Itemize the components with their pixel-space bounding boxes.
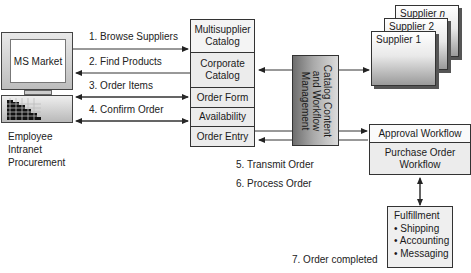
step-7-label: 7. Order completed	[292, 254, 378, 265]
monitor-screen: MS Market	[10, 39, 66, 83]
catalog-workflow-management-box: Catalog Content and Workflow Management	[292, 55, 339, 146]
availability-cell: Availability	[191, 108, 254, 127]
catalog-stack: Multisupplier Catalog Corporate Catalog …	[190, 19, 255, 147]
step-5-label: 5. Transmit Order	[236, 159, 314, 170]
multisupplier-catalog-cell: Multisupplier Catalog	[191, 20, 254, 53]
step-4-label: 4. Confirm Order	[89, 104, 163, 115]
step-3-label: 3. Order Items	[89, 80, 153, 91]
monitor: MS Market	[1, 32, 73, 90]
order-entry-cell: Order Entry	[191, 127, 254, 147]
employee-computer: MS Market	[1, 32, 74, 124]
corporate-catalog-cell: Corporate Catalog	[191, 53, 254, 88]
management-label: Catalog Content and Workflow Management	[299, 64, 332, 136]
keypad-grid-icon	[7, 98, 47, 122]
fulfillment-box: Fulfillment • Shipping • Accounting • Me…	[387, 206, 453, 268]
cpu-unit	[1, 95, 73, 123]
step-6-label: 6. Process Order	[236, 178, 312, 189]
fulfillment-item: • Shipping	[394, 223, 452, 236]
order-form-cell: Order Form	[191, 88, 254, 108]
employee-caption: Employee Intranet Procurement	[8, 130, 65, 169]
fulfillment-title: Fulfillment	[394, 210, 452, 223]
workflow-box: Approval Workflow Purchase Order Workflo…	[369, 124, 471, 175]
step-1-label: 1. Browse Suppliers	[89, 31, 178, 42]
fulfillment-item: • Accounting	[394, 235, 452, 248]
purchase-order-workflow-cell: Purchase Order Workflow	[370, 143, 470, 175]
screen-label: MS Market	[14, 56, 62, 67]
supplier-1-card: Supplier 1	[371, 31, 436, 86]
fulfillment-item: • Messaging	[394, 248, 452, 261]
step-2-label: 2. Find Products	[89, 56, 162, 67]
approval-workflow-cell: Approval Workflow	[370, 125, 470, 143]
